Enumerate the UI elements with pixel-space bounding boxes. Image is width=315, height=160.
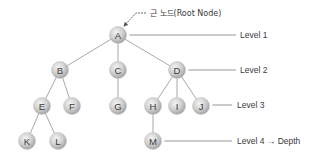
node-label: G: [114, 101, 121, 112]
edge-a-b: [60, 35, 118, 70]
node-h: H: [145, 98, 162, 115]
edge-a-d: [118, 35, 177, 70]
level-1-label: Level 1: [240, 30, 268, 40]
node-l: L: [50, 133, 67, 150]
level-4-label: Level 4 → Depth: [237, 136, 301, 146]
node-label: B: [57, 65, 63, 76]
node-label: E: [39, 101, 45, 112]
node-label: I: [176, 101, 179, 112]
node-label: K: [24, 136, 31, 147]
node-e: E: [34, 98, 51, 115]
root-annotation: 근 노드(Root Node): [125, 9, 221, 26]
node-m: M: [145, 133, 162, 150]
node-g: G: [110, 98, 127, 115]
node-k: K: [19, 133, 36, 150]
node-label: F: [69, 101, 75, 112]
node-label: H: [150, 101, 157, 112]
node-i: I: [169, 98, 186, 115]
tree-edges: [27, 35, 201, 141]
root-arrow-icon: [125, 13, 146, 25]
node-a: A: [110, 27, 127, 44]
level-indicators: Level 1Level 2Level 3Level 4 → Depth: [130, 30, 301, 146]
level-2-label: Level 2: [240, 65, 268, 75]
tree-diagram: Level 1Level 2Level 3Level 4 → Depth 근 노…: [0, 0, 315, 160]
node-label: J: [199, 101, 204, 112]
node-label: A: [115, 30, 122, 41]
node-label: D: [174, 65, 181, 76]
node-b: B: [52, 62, 69, 79]
root-node-label: 근 노드(Root Node): [150, 9, 221, 18]
node-label: M: [149, 136, 157, 147]
node-label: C: [115, 65, 122, 76]
level-3-label: Level 3: [237, 100, 265, 110]
node-d: D: [169, 62, 186, 79]
node-j: J: [193, 98, 210, 115]
node-label: L: [55, 136, 60, 147]
node-c: C: [110, 62, 127, 79]
tree-nodes: ABCDEFGHIJKLM: [19, 27, 210, 150]
node-f: F: [64, 98, 81, 115]
